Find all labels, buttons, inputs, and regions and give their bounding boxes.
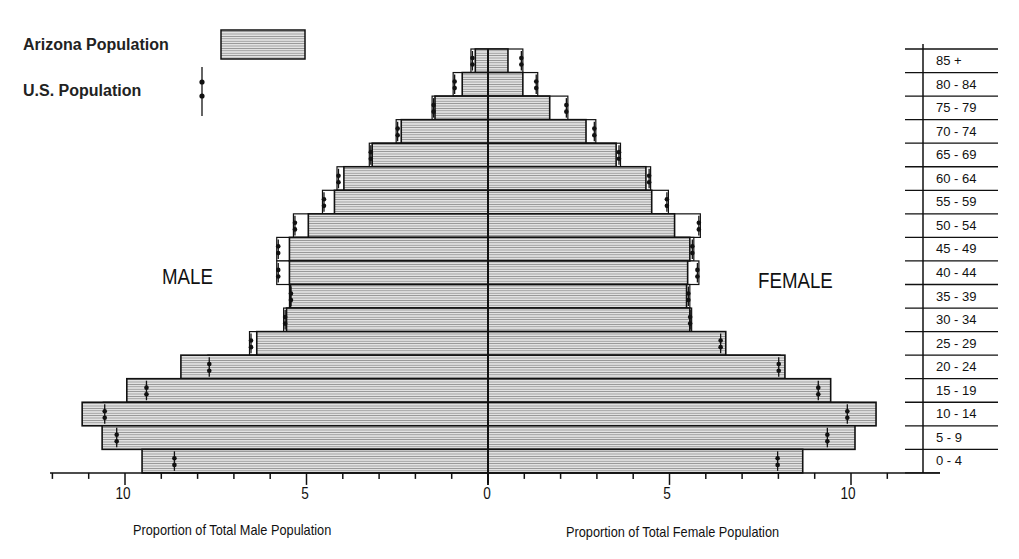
- population-pyramid-chart: [0, 0, 1019, 559]
- arizona-bar-15: [82, 402, 876, 426]
- age-group-label: 55 - 59: [936, 194, 976, 209]
- age-group-label: 45 - 49: [936, 241, 976, 256]
- tick-label-male-10: 10: [115, 485, 130, 503]
- tick-label-female-10: 10: [840, 485, 855, 503]
- age-group-label: 15 - 19: [936, 383, 976, 398]
- arizona-bar-2: [435, 96, 550, 120]
- age-group-label: 60 - 64: [936, 171, 976, 186]
- arizona-bar-4: [372, 143, 616, 167]
- age-group-label: 80 - 84: [936, 77, 976, 92]
- arizona-bar-14: [127, 379, 831, 403]
- age-group-label: 50 - 54: [936, 218, 976, 233]
- age-group-label: 5 - 9: [936, 430, 962, 445]
- age-group-label: 65 - 69: [936, 147, 976, 162]
- arizona-bar-3: [401, 120, 586, 144]
- male-label: MALE: [162, 264, 213, 290]
- arizona-bar-16: [102, 426, 855, 450]
- arizona-bar-1: [462, 73, 523, 97]
- age-group-label: 10 - 14: [936, 406, 976, 421]
- female-label: FEMALE: [758, 268, 833, 294]
- arizona-bar-13: [181, 355, 785, 379]
- male-axis-title: Proportion of Total Male Population: [133, 521, 331, 538]
- arizona-bar-0: [475, 49, 508, 73]
- arizona-bar-8: [289, 237, 689, 261]
- age-group-label: 20 - 24: [936, 359, 976, 374]
- tick-label-female-5: 5: [663, 485, 671, 503]
- arizona-bars: [82, 49, 876, 473]
- arizona-bar-5: [344, 167, 646, 191]
- arizona-bar-7: [308, 214, 674, 238]
- legend-arizona-label: Arizona Population: [23, 36, 169, 54]
- age-group-label: 0 - 4: [936, 453, 962, 468]
- tick-label-male-5: 5: [301, 485, 309, 503]
- age-group-label: 25 - 29: [936, 336, 976, 351]
- age-group-label: 75 - 79: [936, 100, 976, 115]
- legend-arizona-swatch: [221, 30, 305, 59]
- age-group-label: 70 - 74: [936, 124, 976, 139]
- legend-us-label: U.S. Population: [23, 82, 141, 100]
- age-group-label: 30 - 34: [936, 312, 976, 327]
- arizona-bar-6: [334, 190, 651, 214]
- female-axis-title: Proportion of Total Female Population: [566, 523, 779, 540]
- legend-shapes: [199, 30, 305, 116]
- age-group-label: 85 +: [936, 53, 962, 68]
- arizona-bar-17: [142, 449, 803, 473]
- age-group-label: 35 - 39: [936, 289, 976, 304]
- age-group-label: 40 - 44: [936, 265, 976, 280]
- tick-label-zero: 0: [483, 485, 491, 503]
- arizona-bar-12: [257, 332, 726, 356]
